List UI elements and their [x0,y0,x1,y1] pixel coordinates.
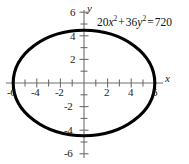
y-axis-label: y [87,3,92,14]
equation-annotation: 20x2+36y2=720 [97,17,172,29]
y-tick-label-4: 4 [70,31,75,42]
y-tick-label--2: -2 [64,101,73,112]
y-tick-label--4: -4 [64,125,73,136]
equation-coeff-x: 20 [97,16,109,28]
y-tick-label--6: -6 [64,148,73,159]
x-tick-label-2: 2 [104,87,109,98]
x-tick-label--4: -4 [31,87,40,98]
x-tick-label--6: -6 [7,87,16,98]
x-tick-label--2: -2 [55,87,64,98]
equation-rhs: 720 [155,16,172,28]
y-tick-label-6: 6 [70,7,75,18]
equation-plus: + [117,16,126,28]
equation-equals: = [146,16,155,28]
ellipse-graph-figure: -6 -4 -2 2 4 6 6 4 2 -2 -4 -6 y x 20x2+3… [0,0,189,164]
x-tick-label-6: 6 [152,87,157,98]
y-tick-label-2: 2 [70,54,75,65]
x-axis-label: x [165,73,170,84]
x-tick-label-4: 4 [128,87,133,98]
equation-coeff-y: 36 [126,16,138,28]
